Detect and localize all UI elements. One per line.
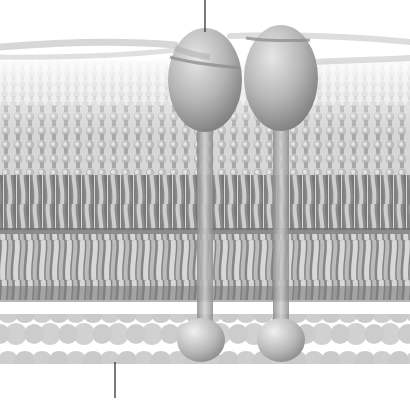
protein-right-anchor	[257, 318, 305, 362]
protein-left-anchor	[177, 318, 225, 362]
membrane-illustration	[0, 0, 410, 404]
